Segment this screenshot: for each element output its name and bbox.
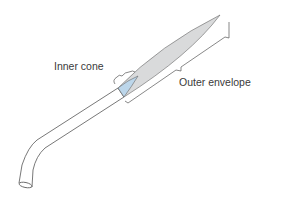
torch-tube <box>19 88 124 187</box>
outer-envelope-bracket <box>125 22 229 103</box>
torch-illustration <box>0 0 289 209</box>
inner-cone-label: Inner cone <box>54 60 104 72</box>
outer-envelope-label: Outer envelope <box>179 76 251 88</box>
flame-diagram: Inner cone Outer envelope <box>0 0 289 209</box>
